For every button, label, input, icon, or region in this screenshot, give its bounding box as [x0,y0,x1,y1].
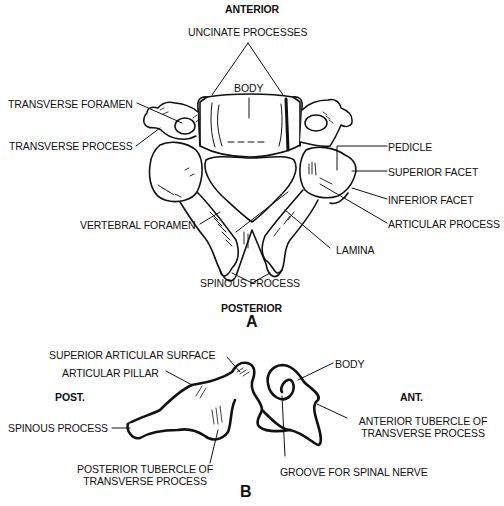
label-articular-pillar: ARTICULAR PILLAR [62,367,159,379]
label-transverse-process: TRANSVERSE PROCESS [9,140,133,152]
label-body: BODY [234,82,263,94]
orientation-ant: ANT. [400,391,423,403]
label-superior-articular-surface: SUPERIOR ARTICULAR SURFACE [49,349,215,361]
label-superior-facet: SUPERIOR FACET [388,166,478,178]
panel-letter-b: B [240,486,251,498]
cervical-vertebra-figure: ANTERIOR UNCINATE PROCESSES BODY TRANSVE… [0,0,504,506]
orientation-post: POST. [55,391,85,403]
label-anterior-tubercle-line2: TRANSVERSE PROCESS [348,427,498,439]
label-groove-for-spinal-nerve: GROOVE FOR SPINAL NERVE [280,466,428,478]
label-transverse-foramen: TRANSVERSE FORAMEN [8,98,133,110]
orientation-anterior: ANTERIOR [225,3,279,15]
left-articular-process-drawing [150,142,203,201]
label-spinous-process-b: SPINOUS PROCESS [8,422,108,434]
label-anterior-tubercle: ANTERIOR TUBERCLE OF TRANSVERSE PROCESS [348,415,498,439]
vertebral-body-drawing [198,94,302,157]
panel-letter-a: A [246,316,257,328]
label-uncinate-processes: UNCINATE PROCESSES [188,26,307,38]
label-inferior-facet: INFERIOR FACET [388,194,474,206]
label-posterior-tubercle-line2: TRANSVERSE PROCESS [70,475,220,487]
label-body-b: BODY [335,358,364,370]
label-posterior-tubercle: POSTERIOR TUBERCLE OF TRANSVERSE PROCESS [70,463,220,487]
label-lamina: LAMINA [336,244,375,256]
label-vertebral-foramen: VERTEBRAL FORAMEN [80,219,196,231]
label-spinous-process-a: SPINOUS PROCESS [200,277,300,289]
label-anterior-tubercle-line1: ANTERIOR TUBERCLE OF [348,415,498,427]
label-pedicle: PEDICLE [388,141,432,153]
label-articular-process: ARTICULAR PROCESS [388,218,500,230]
right-transverse-process-drawing [300,99,352,146]
label-posterior-tubercle-line1: POSTERIOR TUBERCLE OF [70,463,220,475]
right-articular-process-drawing [300,147,356,203]
